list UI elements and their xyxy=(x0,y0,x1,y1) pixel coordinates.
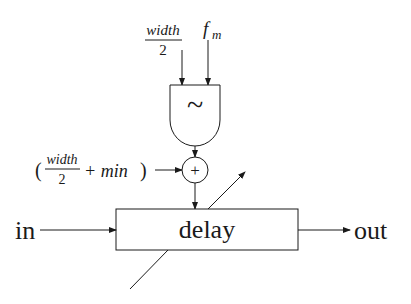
fm-label: f m xyxy=(203,18,221,42)
oscillator-symbol: ~ xyxy=(187,88,203,121)
delay-label: delay xyxy=(179,215,235,244)
svg-text:width: width xyxy=(46,152,77,167)
svg-text:2: 2 xyxy=(59,172,66,187)
width-half-label: width 2 xyxy=(145,22,182,58)
svg-text:): ) xyxy=(140,159,147,182)
svg-text:2: 2 xyxy=(159,42,167,58)
svg-text:+ min: + min xyxy=(84,161,128,181)
adder-symbol: + xyxy=(190,161,200,180)
diagram-canvas: width 2 f m ~ ( width 2 + min ) + delay … xyxy=(0,0,411,304)
svg-text:f: f xyxy=(203,18,211,39)
svg-text:(: ( xyxy=(35,159,42,182)
variable-arrow-lower xyxy=(130,250,168,289)
svg-text:width: width xyxy=(146,22,179,38)
svg-text:m: m xyxy=(212,27,221,42)
input-label: in xyxy=(15,216,35,245)
output-label: out xyxy=(354,216,388,245)
variable-arrow-upper xyxy=(208,172,245,209)
offset-label: ( width 2 + min ) xyxy=(35,152,147,187)
